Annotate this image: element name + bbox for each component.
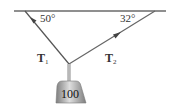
weight-label: 100 [61, 88, 79, 100]
tension-t2-subscript: 2 [113, 58, 117, 66]
tension-t1-symbol: T [37, 51, 45, 65]
arrow-t1-icon [30, 17, 37, 24]
arrow-t2-icon [113, 32, 121, 39]
angle-left-label: 50° [40, 13, 55, 24]
tension-t2-symbol: T [105, 51, 113, 65]
angle-right-label: 32° [120, 13, 135, 24]
hanger-rod [68, 64, 71, 81]
force-diagram [0, 0, 171, 112]
tension-t1-subscript: 1 [45, 58, 49, 66]
tension-t2-label: T2 [105, 52, 117, 66]
tension-t1-label: T1 [37, 52, 49, 66]
